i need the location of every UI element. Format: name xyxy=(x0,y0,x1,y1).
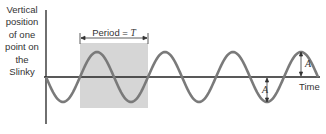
y-label-line: position xyxy=(0,16,44,28)
y-label-line: Vertical xyxy=(0,4,44,16)
period-text: Period = xyxy=(92,27,130,38)
period-symbol: T xyxy=(131,28,136,38)
period-label: Period = T xyxy=(80,27,148,38)
wave-diagram xyxy=(0,0,326,134)
y-label-line: of one xyxy=(0,29,44,41)
y-label-line: point on xyxy=(0,41,44,53)
amplitude-arrow-crest xyxy=(299,52,302,76)
x-axis-label: Time xyxy=(299,81,320,92)
y-label-line: the xyxy=(0,54,44,66)
amplitude-label-crest: A xyxy=(305,58,311,69)
y-axis-label: Vertical position of one point on the Sl… xyxy=(0,4,44,78)
amplitude-label-trough: A xyxy=(262,84,268,95)
y-label-line: Slinky xyxy=(0,66,44,78)
